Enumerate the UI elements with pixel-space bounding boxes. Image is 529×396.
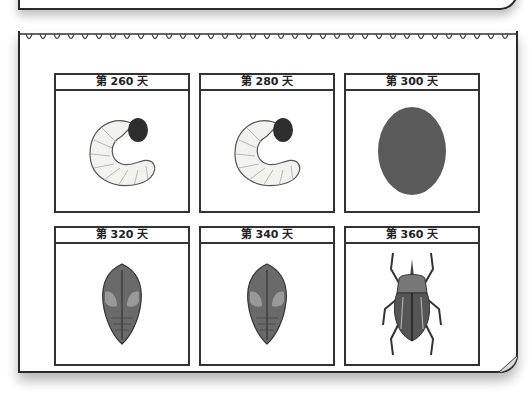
- larva-grub-icon: [82, 106, 162, 196]
- stage-label: 第 340 天: [201, 228, 333, 244]
- page-curl-icon: [498, 355, 518, 373]
- stage-card: 第 360 天: [344, 226, 480, 366]
- stage-card: 第 340 天: [199, 226, 335, 366]
- adult-beetle-icon: [377, 249, 447, 359]
- pupa-icon: [97, 262, 147, 346]
- stage-grid: 第 260 天 第 280 天 第 300 天: [54, 73, 480, 366]
- stage-label: 第 280 天: [201, 75, 333, 91]
- stage-label: 第 300 天: [346, 75, 478, 91]
- stage-card: 第 300 天: [344, 73, 480, 213]
- top-panel: [18, 0, 518, 10]
- stage-card: 第 280 天: [199, 73, 335, 213]
- stage-label: 第 260 天: [56, 75, 188, 91]
- stage-label: 第 320 天: [56, 228, 188, 244]
- stage-label: 第 360 天: [346, 228, 478, 244]
- notebook-page: 第 260 天 第 280 天 第 300 天: [18, 31, 518, 373]
- larva-grub-icon: [227, 106, 307, 196]
- stage-card: 第 260 天: [54, 73, 190, 213]
- pupa-icon: [242, 262, 292, 346]
- stage-card: 第 320 天: [54, 226, 190, 366]
- spiral-binding-icon: [20, 31, 516, 45]
- cocoon-egg-icon: [372, 101, 452, 201]
